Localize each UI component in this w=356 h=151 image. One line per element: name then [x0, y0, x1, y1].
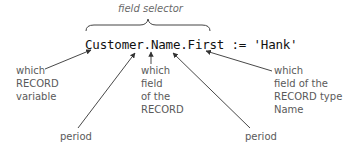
arrow-period-left [78, 53, 135, 128]
field-selector-diagram: field selector Customer.Name.First := 'H… [0, 0, 356, 151]
arrow-record-variable [45, 50, 91, 69]
arrow-period-right [173, 53, 250, 128]
curly-brace-icon [86, 19, 210, 31]
arrows-overlay [0, 0, 356, 151]
arrow-field-of-type [206, 51, 272, 71]
